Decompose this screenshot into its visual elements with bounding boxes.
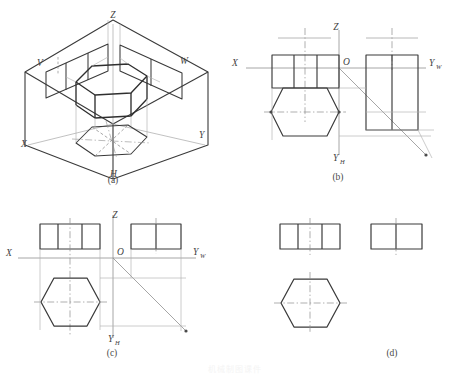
panel-a: Z V W X Y H (a) [0,0,226,190]
front-view-outline [272,55,339,88]
panel-caption-c: (c) [92,348,132,358]
axis-label-x: X [231,58,239,68]
axis-label-yh: Y H [108,334,120,346]
vertex-dot-left [269,110,272,113]
panel-caption-b: (b) [318,172,358,182]
axis-label-z: Z [333,22,339,32]
axis-label-x: X [5,248,13,258]
panel-caption-d: (d) [372,348,412,358]
panel-b: Z X O Y W Y H (b) [226,0,451,190]
axis-x-line [28,124,113,145]
vertex-dot-mitre-end [184,329,187,332]
projection-ray-3 [120,58,128,64]
axis-label-yw: Y W [193,247,206,259]
origin-label-o: O [343,57,350,67]
panel-caption-a: (a) [93,175,133,185]
projection-ray-4 [147,76,160,82]
vertex-dot-right [337,110,340,113]
axis-label-z: Z [112,210,118,220]
svg-text:H: H [114,339,120,346]
panel-b-drawing: Z X O Y W Y H [226,0,451,190]
mitre-line-45deg [113,258,186,331]
axis-label-y: Y [199,130,206,140]
plane-label-w: W [180,56,189,66]
panel-c: Z X O Y W Y H (c) [0,190,226,376]
panel-a-drawing: Z V W X Y H [0,0,226,190]
panel-d: (d) [226,190,451,376]
object-hexagon-top-face [76,64,147,95]
panel-d-drawing [226,190,451,376]
svg-text:W: W [200,252,206,259]
svg-text:W: W [436,63,442,70]
axis-label-z: Z [110,10,116,20]
faint-bottom-text: 机械制图课件 [208,363,262,374]
svg-text:Y: Y [108,334,115,344]
svg-text:Y: Y [193,247,200,257]
plane-fold-edge-v [25,72,113,124]
vertex-dot-mitre-end [424,153,427,156]
plane-label-v: V [37,58,44,68]
axis-label-yw: Y W [429,58,442,70]
projection-ray-1 [66,77,76,82]
svg-text:Y: Y [429,58,436,68]
axis-label-x: X [20,139,28,149]
svg-text:H: H [339,158,345,165]
origin-label-o: O [117,247,124,257]
mitre-line-45deg [339,68,426,155]
